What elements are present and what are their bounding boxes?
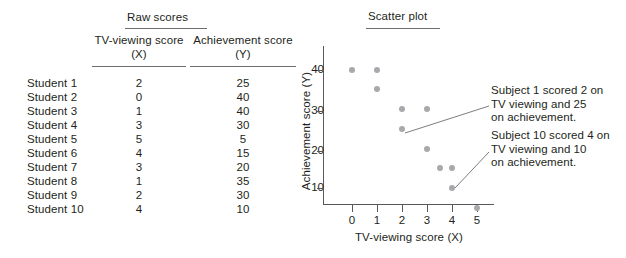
x-tick-label: 3	[417, 214, 437, 226]
cell-y: 30	[196, 188, 290, 202]
cell-x: 2	[98, 76, 180, 90]
cell-x: 4	[98, 202, 180, 216]
data-point	[349, 67, 355, 73]
cell-y: 20	[196, 160, 290, 174]
table-row: Student 10 4 10	[0, 202, 310, 216]
scatter-plot-panel: Scatter plot 40 30 20 10 0 1 2	[282, 0, 626, 258]
cell-y: 25	[196, 76, 290, 90]
raw-scores-title: Raw scores	[127, 11, 188, 23]
y-axis-label: Achievement score (Y)	[300, 56, 312, 206]
cell-x: 3	[98, 160, 180, 174]
y-tick-mark	[317, 111, 324, 112]
table-row: Student 1 2 25	[0, 76, 310, 90]
column-header-y-line2: (Y)	[189, 47, 297, 61]
table-row: Student 8 1 35	[0, 174, 310, 188]
data-point	[399, 126, 405, 132]
raw-scores-underline	[125, 28, 207, 29]
data-point	[374, 86, 380, 92]
x-tick-label: 2	[392, 214, 412, 226]
cell-y: 10	[196, 202, 290, 216]
table-row: Student 7 3 20	[0, 160, 310, 174]
data-point	[424, 146, 430, 152]
column-rule-y	[190, 66, 296, 67]
leader-line-2	[455, 152, 489, 188]
cell-x: 1	[98, 104, 180, 118]
table-row: Student 5 5 5	[0, 132, 310, 146]
raw-scores-table: Raw scores TV-viewing score (X) Achievem…	[0, 0, 310, 258]
data-point	[449, 165, 455, 171]
table-row: Student 4 3 30	[0, 118, 310, 132]
x-tick-mark	[352, 205, 353, 212]
data-point	[437, 165, 443, 171]
cell-y: 40	[196, 104, 290, 118]
data-point	[424, 106, 430, 112]
x-tick-label: 4	[442, 214, 462, 226]
cell-x: 2	[98, 188, 180, 202]
cell-y: 40	[196, 90, 290, 104]
cell-y: 15	[196, 146, 290, 160]
table-row: Student 9 2 30	[0, 188, 310, 202]
cell-x: 3	[98, 118, 180, 132]
cell-y: 35	[196, 174, 290, 188]
column-header-x-line1: TV-viewing score	[91, 33, 187, 47]
annotation-subject-10: Subject 10 scored 4 on TV viewing and 10…	[491, 129, 626, 170]
column-header-x: TV-viewing score (X)	[91, 33, 187, 61]
annotation-subject-1: Subject 1 scored 2 on TV viewing and 25 …	[491, 84, 626, 125]
table-row: Student 3 1 40	[0, 104, 310, 118]
x-tick-mark	[377, 205, 378, 212]
cell-x: 4	[98, 146, 180, 160]
cell-x: 1	[98, 174, 180, 188]
column-rule-x	[92, 66, 186, 67]
column-header-y: Achievement score (Y)	[189, 33, 297, 61]
table-row: Student 2 0 40	[0, 90, 310, 104]
cell-y: 30	[196, 118, 290, 132]
data-point	[399, 106, 405, 112]
y-tick-mark	[317, 70, 324, 71]
table-row: Student 6 4 15	[0, 146, 310, 160]
y-tick-mark	[317, 188, 324, 189]
x-axis-label: TV-viewing score (X)	[323, 231, 495, 243]
cell-x: 0	[98, 90, 180, 104]
x-tick-mark	[452, 205, 453, 212]
x-tick-label: 5	[467, 214, 487, 226]
data-point	[374, 67, 380, 73]
x-tick-mark	[402, 205, 403, 212]
y-tick-mark	[317, 151, 324, 152]
column-header-x-line2: (X)	[91, 47, 187, 61]
x-tick-label: 1	[367, 214, 387, 226]
x-tick-label: 0	[342, 214, 362, 226]
data-point	[474, 205, 480, 211]
data-point	[449, 185, 455, 191]
cell-y: 5	[196, 132, 290, 146]
x-tick-mark	[427, 205, 428, 212]
leader-line-1	[405, 106, 489, 133]
cell-x: 5	[98, 132, 180, 146]
column-header-y-line1: Achievement score	[189, 33, 297, 47]
x-axis-line	[323, 204, 494, 205]
